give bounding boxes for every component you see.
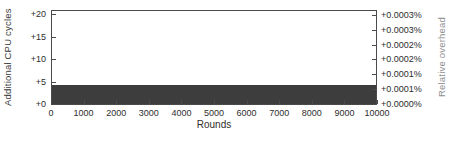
left-y-tick-label: +15 [0, 32, 46, 42]
right-y-tick-mark [372, 45, 376, 46]
right-y-tick-mark [372, 15, 376, 16]
left-y-tick-label: +5 [0, 77, 46, 87]
right-y-tick-mark [372, 59, 376, 60]
left-y-tick-mark [52, 104, 56, 105]
plot-area [51, 10, 377, 105]
right-y-tick-mark [372, 30, 376, 31]
x-tick-mark [312, 100, 313, 104]
right-y-tick-label: +0.0001% [381, 69, 436, 79]
left-y-tick-label: +20 [0, 9, 46, 19]
x-tick-label: 10000 [357, 108, 397, 118]
left-y-tick-mark [52, 37, 56, 38]
x-tick-mark [181, 100, 182, 104]
left-y-tick-mark [52, 59, 56, 60]
x-tick-mark [214, 100, 215, 104]
x-tick-mark [84, 100, 85, 104]
right-y-tick-label: +0.0003% [381, 25, 436, 35]
right-y-tick-label: +0.0003% [381, 10, 436, 20]
x-tick-mark [149, 100, 150, 104]
right-y-axis-title: Relative overhead [434, 8, 448, 107]
x-tick-mark [279, 100, 280, 104]
overhead-chart: Additional CPU cycles Relative overhead … [0, 0, 451, 141]
x-axis-title: Rounds [51, 119, 377, 130]
x-tick-mark [247, 100, 248, 104]
left-y-tick-label: +10 [0, 54, 46, 64]
right-y-tick-mark [372, 74, 376, 75]
x-tick-mark [377, 100, 378, 104]
left-y-tick-mark [52, 82, 56, 83]
right-y-tick-label: +0.0002% [381, 40, 436, 50]
right-y-tick-mark [372, 104, 376, 105]
x-tick-mark [344, 100, 345, 104]
right-y-tick-label: +0.0002% [381, 54, 436, 64]
right-y-tick-mark [372, 89, 376, 90]
right-y-tick-label: +0.0001% [381, 84, 436, 94]
x-tick-mark [116, 100, 117, 104]
left-y-tick-mark [52, 14, 56, 15]
x-tick-mark [51, 100, 52, 104]
